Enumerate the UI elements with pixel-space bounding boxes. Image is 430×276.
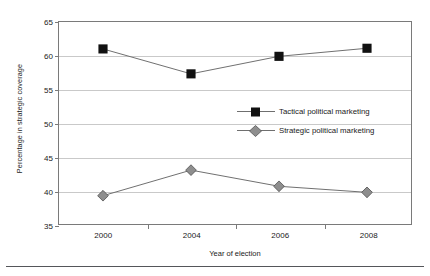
data-point-diamond-icon: [98, 190, 109, 201]
footer-rule: [6, 266, 424, 267]
series-line: [103, 170, 367, 196]
data-point-diamond-icon: [186, 165, 197, 176]
y-tick-label: 40: [44, 188, 53, 197]
y-tick-label: 60: [44, 52, 53, 61]
y-tick-label: 45: [44, 154, 53, 163]
data-point-square-icon: [362, 44, 371, 53]
legend-item-strategic: Strategic political marketing: [237, 121, 413, 140]
data-point-square-icon: [274, 52, 283, 61]
data-point-square-icon: [98, 44, 107, 53]
chart-figure: Percentage in strategic coverage 3540455…: [0, 0, 430, 276]
y-tick-label: 55: [44, 86, 53, 95]
x-tick-mark: [236, 224, 237, 229]
chart-legend: Tactical political marketing Strategic p…: [237, 102, 413, 140]
legend-label-tactical: Tactical political marketing: [279, 107, 370, 116]
x-tick-mark: [148, 224, 149, 229]
x-axis-title: Year of election: [58, 249, 412, 258]
x-tick-label: 2000: [94, 231, 112, 240]
plot-area: 35404550556065 2000200420062008 Tactical…: [58, 21, 412, 225]
series-line: [103, 48, 367, 74]
x-tick-label: 2008: [360, 231, 378, 240]
data-point-diamond-icon: [274, 181, 285, 192]
x-tick-mark: [325, 224, 326, 229]
y-axis-title: Percentage in strategic coverage: [15, 19, 24, 219]
legend-label-strategic: Strategic political marketing: [279, 126, 374, 135]
x-tick-label: 2004: [183, 231, 201, 240]
legend-marker-diamond-icon: [237, 124, 275, 138]
y-tick-label: 50: [44, 120, 53, 129]
y-tick-label: 35: [44, 222, 53, 231]
y-tick-mark: [55, 226, 59, 227]
legend-marker-square-icon: [237, 105, 275, 119]
data-point-square-icon: [186, 69, 195, 78]
data-point-diamond-icon: [362, 187, 373, 198]
y-tick-label: 65: [44, 18, 53, 27]
legend-item-tactical: Tactical political marketing: [237, 102, 413, 121]
x-tick-label: 2006: [271, 231, 289, 240]
